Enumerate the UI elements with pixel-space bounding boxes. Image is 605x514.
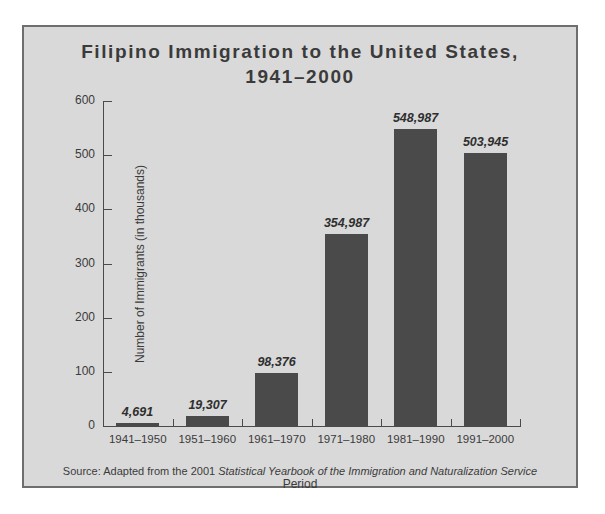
y-tick-label: 400 — [75, 201, 95, 215]
x-tick — [451, 419, 452, 426]
source-publication-title: Statistical Yearbook of the Immigration … — [218, 465, 537, 477]
x-category-label: 1991–2000 — [456, 433, 514, 445]
source-note: Source: Adapted from the 2001 Statistica… — [24, 465, 576, 477]
x-category-label: 1981–1990 — [387, 433, 445, 445]
y-tick: 300 — [104, 264, 112, 265]
bar[interactable]: 4,691 — [116, 423, 159, 426]
x-tick — [520, 419, 521, 426]
bar[interactable]: 98,376 — [255, 373, 298, 426]
x-tick — [173, 419, 174, 426]
chart-figure: Filipino Immigration to the United State… — [22, 25, 578, 488]
bar-value-label: 98,376 — [257, 355, 295, 369]
chart-title-line-1: Filipino Immigration to the United State… — [24, 39, 576, 64]
y-tick-label: 0 — [88, 418, 95, 432]
x-axis-line — [103, 426, 521, 427]
y-tick: 400 — [104, 209, 112, 210]
plot-area: Number of Immigrants (in thousands) 0100… — [103, 101, 520, 426]
y-tick: 600 — [104, 101, 112, 102]
y-tick: 200 — [104, 318, 112, 319]
y-tick-label: 100 — [75, 364, 95, 378]
chart-title-line-2: 1941–2000 — [24, 64, 576, 89]
x-tick — [312, 419, 313, 426]
y-tick: 0 — [104, 426, 112, 427]
y-tick-label: 200 — [75, 310, 95, 324]
y-tick: 100 — [104, 372, 112, 373]
chart-title: Filipino Immigration to the United State… — [24, 39, 576, 89]
bar[interactable]: 19,307 — [186, 416, 229, 426]
bar-value-label: 503,945 — [463, 135, 508, 149]
source-prefix: Source: Adapted from the 2001 — [63, 465, 218, 477]
bar-value-label: 4,691 — [122, 405, 153, 419]
y-tick-label: 500 — [75, 147, 95, 161]
bar[interactable]: 548,987 — [394, 129, 437, 426]
bar[interactable]: 503,945 — [464, 153, 507, 426]
bar-value-label: 19,307 — [188, 398, 226, 412]
x-tick — [381, 419, 382, 426]
bar-value-label: 354,987 — [324, 216, 369, 230]
x-tick — [103, 419, 104, 426]
bar[interactable]: 354,987 — [325, 234, 368, 426]
x-category-label: 1971–1980 — [317, 433, 375, 445]
x-category-label: 1941–1950 — [109, 433, 167, 445]
x-axis-title: Period — [24, 477, 576, 491]
x-tick — [242, 419, 243, 426]
x-category-label: 1951–1960 — [178, 433, 236, 445]
x-category-label: 1961–1970 — [248, 433, 306, 445]
bar-value-label: 548,987 — [393, 111, 438, 125]
y-tick-label: 300 — [75, 256, 95, 270]
y-tick-label: 600 — [75, 93, 95, 107]
y-axis-title: Number of Immigrants (in thousands) — [133, 164, 147, 362]
y-tick: 500 — [104, 155, 112, 156]
